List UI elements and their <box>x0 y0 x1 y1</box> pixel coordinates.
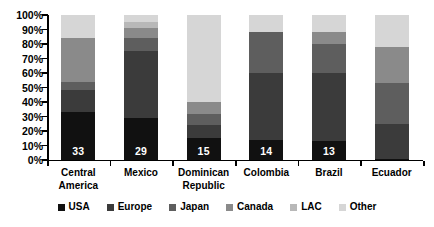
bar-segment-other[interactable] <box>187 15 221 102</box>
bar-segment-other[interactable] <box>249 15 283 32</box>
x-axis-tick-mark <box>172 161 174 166</box>
y-axis-tick-label: 60% <box>22 68 43 78</box>
bar-segment-europe[interactable] <box>187 125 221 138</box>
legend-item-other[interactable]: Other <box>339 202 377 212</box>
x-axis-label-line: Republic <box>172 180 235 193</box>
x-axis-label-line: Dominican <box>172 167 235 180</box>
y-axis-tick-mark <box>42 58 48 60</box>
x-axis-label-line: Mexico <box>110 167 173 180</box>
bar-segment-japan[interactable] <box>61 82 95 91</box>
y-axis-tick-mark <box>42 87 48 89</box>
y-axis-tick-label: 70% <box>22 54 43 64</box>
bar-segment-canada[interactable] <box>375 47 409 83</box>
y-axis-tick-label: 90% <box>22 25 43 35</box>
square-swatch-icon <box>58 204 65 211</box>
y-axis-tick-label: 50% <box>22 83 43 93</box>
x-axis-category-label: Colombia <box>235 167 298 180</box>
bar-segment-usa[interactable]: 29 <box>124 118 158 160</box>
bar-segment-japan[interactable] <box>187 114 221 126</box>
bar-segment-canada[interactable] <box>124 28 158 38</box>
bar-value-label: 29 <box>124 146 158 157</box>
bar-segment-canada[interactable] <box>312 32 346 44</box>
y-axis-tick-mark <box>42 130 48 132</box>
bar-central-america[interactable]: 33 <box>61 15 95 160</box>
legend-label: Europe <box>118 202 152 212</box>
bar-colombia[interactable]: 14 <box>249 15 283 160</box>
bar-segment-canada[interactable] <box>61 38 95 82</box>
bar-segment-canada[interactable] <box>187 102 221 114</box>
x-axis-label-line: Brazil <box>298 167 361 180</box>
y-axis: 0%10%20%30%40%50%60%70%80%90%100% <box>0 0 47 227</box>
y-axis-tick-mark <box>42 29 48 31</box>
bar-segment-usa[interactable]: 14 <box>249 140 283 160</box>
x-axis-label-line: Colombia <box>235 167 298 180</box>
bar-dominican-republic[interactable]: 15 <box>187 15 221 160</box>
legend-item-lac[interactable]: LAC <box>290 202 322 212</box>
legend-label: USA <box>69 202 90 212</box>
y-axis-tick-label: 10% <box>22 141 43 151</box>
x-axis-tick-mark <box>423 161 425 166</box>
bar-segment-usa[interactable]: 15 <box>187 138 221 160</box>
bar-segment-usa[interactable]: 33 <box>61 112 95 160</box>
bar-segment-europe[interactable] <box>249 73 283 140</box>
y-axis-tick-label: 80% <box>22 39 43 49</box>
chart-legend: USAEuropeJapanCanadaLACOther <box>0 202 434 212</box>
bar-ecuador[interactable]: 1 <box>375 15 409 160</box>
legend-label: Japan <box>180 202 209 212</box>
legend-item-japan[interactable]: Japan <box>169 202 209 212</box>
x-axis-tick-mark <box>47 161 49 166</box>
legend-label: Other <box>350 202 377 212</box>
y-axis-tick-label: 40% <box>22 97 43 107</box>
bar-mexico[interactable]: 29 <box>124 15 158 160</box>
legend-item-europe[interactable]: Europe <box>107 202 152 212</box>
x-axis-category-label: Ecuador <box>360 167 423 180</box>
x-axis-label-line: Ecuador <box>360 167 423 180</box>
x-axis-label-line: America <box>47 180 110 193</box>
square-swatch-icon <box>169 204 176 211</box>
bar-value-label: 33 <box>61 146 95 157</box>
y-axis-tick-mark <box>42 145 48 147</box>
bar-segment-usa[interactable]: 13 <box>312 141 346 160</box>
bar-value-label: 14 <box>249 146 283 157</box>
bar-segment-other[interactable] <box>61 15 95 38</box>
square-swatch-icon <box>290 204 297 211</box>
stacked-bar-chart: 0%10%20%30%40%50%60%70%80%90%100% 332915… <box>0 0 434 227</box>
bar-segment-other[interactable] <box>312 15 346 32</box>
legend-item-usa[interactable]: USA <box>58 202 90 212</box>
bar-segment-other[interactable] <box>375 15 409 47</box>
bar-segment-japan[interactable] <box>249 32 283 73</box>
x-axis-category-label: DominicanRepublic <box>172 167 235 192</box>
bar-segment-japan[interactable] <box>375 83 409 124</box>
x-axis-tick-mark <box>110 161 112 166</box>
plot-area: 33291514131 <box>47 15 423 160</box>
y-axis-tick-label: 20% <box>22 126 43 136</box>
bar-brazil[interactable]: 13 <box>312 15 346 160</box>
bar-value-label: 15 <box>187 146 221 157</box>
bar-segment-japan[interactable] <box>124 38 158 51</box>
x-axis-category-label: Brazil <box>298 167 361 180</box>
x-axis-tick-mark <box>235 161 237 166</box>
bar-segment-europe[interactable] <box>61 90 95 112</box>
x-axis-category-label: CentralAmerica <box>47 167 110 192</box>
x-axis-tick-mark <box>298 161 300 166</box>
legend-item-canada[interactable]: Canada <box>226 202 273 212</box>
bar-segment-other[interactable] <box>124 15 158 22</box>
y-axis-tick-mark <box>42 116 48 118</box>
bar-segment-japan[interactable] <box>312 44 346 73</box>
x-axis-tick-mark <box>360 161 362 166</box>
y-axis-tick-mark <box>42 43 48 45</box>
bar-value-label: 13 <box>312 146 346 157</box>
square-swatch-icon <box>107 204 114 211</box>
legend-label: Canada <box>237 202 273 212</box>
y-axis-tick-mark <box>42 101 48 103</box>
bar-segment-europe[interactable] <box>312 73 346 141</box>
y-axis-tick-mark <box>42 14 48 16</box>
square-swatch-icon <box>339 204 346 211</box>
bar-segment-lac[interactable] <box>124 22 158 28</box>
x-axis-category-label: Mexico <box>110 167 173 180</box>
square-swatch-icon <box>226 204 233 211</box>
bar-segment-europe[interactable] <box>375 124 409 159</box>
bar-segment-europe[interactable] <box>124 51 158 118</box>
bar-segment-usa[interactable]: 1 <box>375 159 409 160</box>
legend-label: LAC <box>301 202 322 212</box>
